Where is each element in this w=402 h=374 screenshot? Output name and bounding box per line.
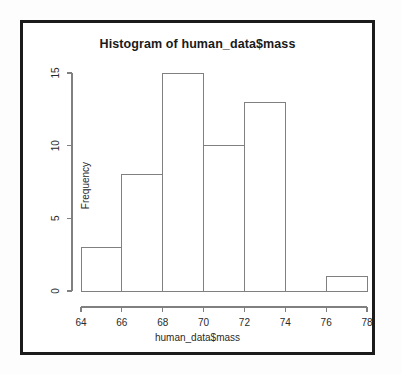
- y-tick-label: 5: [50, 215, 61, 221]
- x-tick-label: 72: [239, 317, 251, 328]
- y-axis-title: Frequency: [80, 125, 91, 245]
- y-tick-label: 10: [50, 140, 61, 152]
- histogram-bar: [204, 146, 245, 291]
- x-tick-label: 76: [321, 317, 333, 328]
- x-tick-label: 68: [157, 317, 169, 328]
- x-tick-label: 70: [198, 317, 210, 328]
- y-tick-label: 0: [50, 288, 61, 294]
- histogram-svg: 0510156466687072747678: [23, 23, 378, 358]
- x-tick-label: 78: [361, 317, 373, 328]
- screenshot-canvas: Histogram of human_data$mass 05101564666…: [0, 0, 402, 374]
- histogram-bar: [81, 247, 122, 291]
- x-tick-label: 66: [116, 317, 128, 328]
- y-tick-label: 15: [50, 67, 61, 79]
- x-tick-label: 74: [280, 317, 292, 328]
- histogram-bar: [326, 276, 367, 291]
- x-axis-title: human_data$mass: [23, 332, 372, 343]
- x-tick-label: 64: [75, 317, 87, 328]
- histogram-plot: Histogram of human_data$mass 05101564666…: [23, 23, 372, 352]
- histogram-bar: [122, 175, 163, 291]
- plot-frame-border: Histogram of human_data$mass 05101564666…: [20, 20, 375, 355]
- histogram-bar: [244, 102, 285, 291]
- histogram-bar: [163, 73, 204, 291]
